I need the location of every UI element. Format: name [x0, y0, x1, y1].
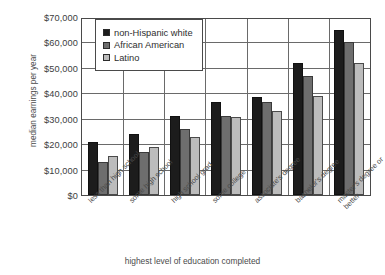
y-axis-tick: $70,000 [44, 13, 78, 23]
bar [211, 102, 221, 195]
x-axis-tick-labels: less than high schoolsome high schoolhig… [81, 197, 371, 253]
y-axis-tick: $30,000 [44, 115, 78, 125]
bar [293, 63, 303, 195]
x-tick-slot: master's degree or better [330, 197, 371, 253]
bar [170, 116, 180, 195]
legend-item: Latino [103, 53, 193, 63]
y-axis-tick: $20,000 [44, 140, 78, 150]
y-axis-tick: $10,000 [44, 166, 78, 176]
y-axis-tick: $50,000 [44, 64, 78, 74]
x-tick-slot: bachelor's degree [288, 197, 329, 253]
x-tick-slot: less than high school [81, 197, 122, 253]
legend-label: non-Hispanic white [114, 28, 193, 38]
y-axis-tick: $0 [68, 191, 78, 201]
y-axis-tick: $60,000 [44, 38, 78, 48]
bar [303, 76, 313, 196]
x-tick-slot: some high school [122, 197, 163, 253]
legend-item: African American [103, 40, 193, 50]
y-axis-tick: $40,000 [44, 89, 78, 99]
y-axis-tick-labels: $0$10,000$20,000$30,000$40,000$50,000$60… [22, 13, 78, 199]
x-axis-title: highest level of education completed [0, 256, 385, 266]
legend-label: African American [114, 40, 184, 50]
x-tick-slot: associate's degree [247, 197, 288, 253]
bar-chart: median earnings per year $0$10,000$20,00… [0, 0, 385, 275]
bar [344, 42, 354, 195]
legend-label: Latino [114, 53, 139, 63]
x-tick-slot: high school grad [164, 197, 205, 253]
legend-swatch-icon [103, 42, 110, 49]
legend-swatch-icon [103, 54, 110, 61]
legend-swatch-icon [103, 29, 110, 36]
bar [252, 97, 262, 195]
x-tick-slot: some college [205, 197, 246, 253]
legend-item: non-Hispanic white [103, 28, 193, 38]
legend: non-Hispanic whiteAfrican AmericanLatino [95, 19, 203, 71]
bar [334, 30, 344, 195]
